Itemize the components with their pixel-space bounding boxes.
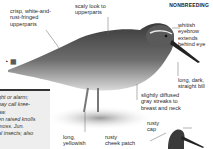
inset-bill — [181, 136, 204, 148]
habitat-icon: ▦ — [10, 58, 17, 65]
info-box-text: ght or alarm; bay call kree- aw. en rais… — [0, 94, 35, 138]
info-box: ght or alarm; bay call kree- aw. en rais… — [0, 89, 50, 149]
status-icons: ◔ ▦ — [4, 58, 17, 66]
bird-eye — [165, 35, 168, 38]
label-breast: slightly diffused gray streaks to breast… — [141, 92, 181, 111]
label-bill: long, dark, straight bill — [178, 77, 205, 90]
leader-line — [46, 30, 62, 52]
range-icon: ◔ — [4, 58, 8, 65]
label-legs: long, yellowish — [63, 134, 86, 147]
season-label: NONBREEDING — [169, 2, 209, 8]
bird-head — [146, 25, 174, 47]
label-upperparts-fringed: crisp, white-and- rust-fringed upperpart… — [10, 8, 51, 27]
label-cheek: rusty cheek patch — [105, 134, 135, 147]
ground-shadow — [45, 106, 155, 130]
leader-line — [150, 133, 166, 141]
label-eyebrow: whitish eyebrow extends behind eye — [178, 22, 205, 48]
label-scaly-upperparts: scaly look to upperparts — [75, 3, 106, 16]
label-cap: rusty cap — [147, 120, 159, 133]
